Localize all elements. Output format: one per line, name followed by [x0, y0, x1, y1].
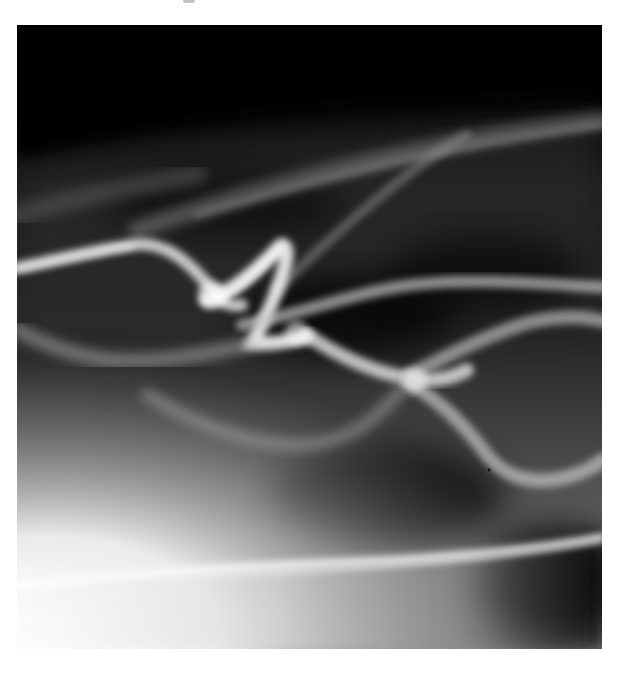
light-wave-artwork: [17, 25, 602, 649]
page: [0, 0, 622, 677]
page-mark: [183, 0, 195, 3]
light-wave-photograph: [17, 25, 602, 649]
